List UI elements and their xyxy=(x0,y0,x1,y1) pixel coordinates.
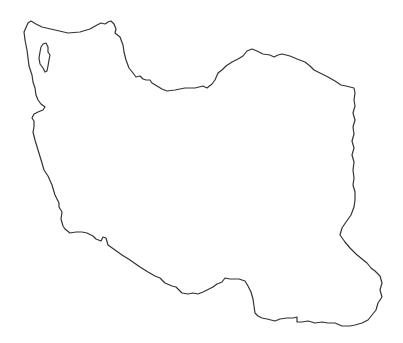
country-border xyxy=(24,21,382,326)
map-canvas xyxy=(0,0,403,343)
lake-urmia xyxy=(39,43,50,72)
outline-map xyxy=(0,0,403,343)
